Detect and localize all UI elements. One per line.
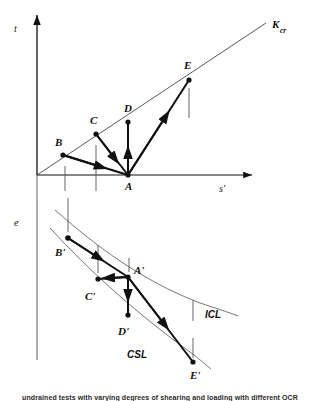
point-label-a-prime: A' xyxy=(133,264,144,276)
point-b-prime xyxy=(65,235,71,241)
kcr-line xyxy=(37,23,266,175)
point-label-c: C xyxy=(90,114,98,126)
point-label-e-prime: E' xyxy=(189,369,200,381)
point-label-e: E xyxy=(183,59,191,71)
point-a-prime xyxy=(125,274,130,279)
point-e xyxy=(186,77,191,82)
point-c xyxy=(93,131,98,136)
bottom-plot: A' B' C' D' E' e ICL CSL xyxy=(14,198,238,381)
path-c-to-a-arrow xyxy=(96,134,115,159)
point-label-b: B xyxy=(54,136,62,148)
point-b xyxy=(60,152,65,157)
csl-label: CSL xyxy=(127,349,147,360)
path-cprime-to-aprime-arrow xyxy=(108,277,128,278)
top-y-axis-label: t xyxy=(14,23,17,34)
point-a xyxy=(125,172,130,177)
point-d xyxy=(125,119,130,124)
point-label-b-prime: B' xyxy=(54,246,65,258)
point-label-c-prime: C' xyxy=(85,290,95,302)
point-label-d-prime: D' xyxy=(117,325,129,337)
point-label-d: D xyxy=(123,102,132,114)
point-d-prime xyxy=(125,312,130,317)
kcr-label-sub: cr xyxy=(280,26,286,35)
path-b-to-a-arrow xyxy=(63,155,101,167)
bottom-y-axis-label: e xyxy=(14,217,19,228)
point-e-prime xyxy=(190,359,195,364)
icl-label: ICL xyxy=(205,309,221,320)
top-x-axis-label: s' xyxy=(219,183,226,194)
point-c-prime xyxy=(95,276,100,281)
path-bprime-to-aprime-arrow xyxy=(68,238,99,258)
stress-path-figure: A B C D E t s' K cr xyxy=(0,0,320,401)
path-a-to-e-arrow xyxy=(128,116,166,175)
top-plot: A B C D E t s' K cr xyxy=(14,15,286,200)
point-label-a: A xyxy=(124,180,132,192)
csl-curve xyxy=(50,228,211,369)
figure-caption: undrained tests with varying degrees of … xyxy=(0,392,320,401)
kcr-label-main: K xyxy=(271,18,280,30)
